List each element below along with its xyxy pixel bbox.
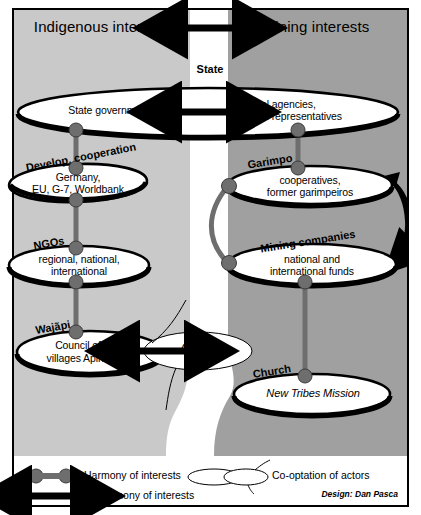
node-apiwata-label: Apiwata (180, 344, 254, 355)
design-credit: Design: Dan Pasca (286, 490, 398, 499)
node-wajapi-line2-italic: Apina (83, 352, 109, 364)
banner-indigenous: Indigenous interests (18, 19, 186, 35)
banner-mining: Mining interests (232, 19, 400, 35)
diagram-root: Indigenous interests Mining interests St… (0, 0, 421, 515)
node-mining-line2: international funds (234, 266, 390, 277)
node-state-right-line1: Federal agencies, (234, 99, 398, 110)
legend-cooptation-label: Co-optation of actors (272, 470, 412, 481)
dot-state-bottom-left (69, 123, 83, 137)
legend-disharmony-label: Disharmony of interests (84, 490, 264, 501)
node-state-right-line2: Federal representatives (234, 111, 398, 122)
node-wajapi-line2-plain: villages (47, 352, 83, 364)
dot-state-bottom-right (291, 123, 305, 137)
node-ngos-line1: regional, national, (12, 254, 146, 265)
node-ngos-line2: international (12, 266, 146, 277)
legend-coopt-tail-up (255, 460, 270, 470)
node-wajapi-line1: Council of (30, 340, 126, 351)
node-garimpo-line1: cooperatives, (232, 175, 388, 186)
node-church-line1: New Tribes Mission (240, 388, 386, 400)
corridor-label-state: State (176, 64, 244, 76)
node-wajapi-line2: villages Apina (24, 353, 132, 364)
node-devcoop-line2: EU, G-7, Worldbank (10, 184, 146, 195)
region-indigenous (14, 10, 190, 456)
node-garimpo-line2: former garimpeiros (232, 187, 388, 198)
node-mining-line1: national and (234, 254, 390, 265)
node-devcoop-line1: Germany, (10, 172, 146, 183)
node-state-left-text: State government (36, 105, 182, 116)
legend-harmony-label: Harmony of interests (84, 470, 244, 481)
